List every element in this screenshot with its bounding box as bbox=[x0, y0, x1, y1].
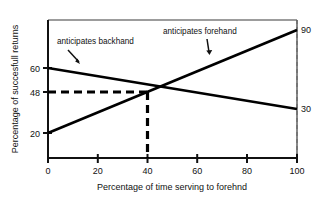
annotation-arrow-forehand-head bbox=[206, 50, 212, 55]
x-tick-label-80: 80 bbox=[242, 166, 252, 176]
annotation-label-anticipates-forehand: anticipates forehand bbox=[163, 27, 237, 36]
x-tick-label-40: 40 bbox=[142, 166, 152, 176]
y-tick-label-48: 48 bbox=[30, 88, 40, 98]
x-tick-label-20: 20 bbox=[93, 166, 103, 176]
line-chart-svg: 60 48 20 0 20 40 60 80 100 Percentage of… bbox=[0, 0, 328, 202]
series-line-anticipates-backhand bbox=[48, 68, 297, 109]
y-axis-title: Percentage of succesfull returns bbox=[10, 24, 20, 153]
annotation-arrow-forehand-shaft bbox=[207, 39, 209, 52]
right-value-label-90: 90 bbox=[301, 25, 311, 35]
x-tick-label-60: 60 bbox=[192, 166, 202, 176]
annotation-label-anticipates-backhand: anticipates backhand bbox=[57, 37, 134, 46]
x-tick-label-100: 100 bbox=[289, 166, 304, 176]
x-axis-title: Percentage of time serving to forehnd bbox=[97, 182, 247, 192]
x-tick-label-0: 0 bbox=[45, 166, 50, 176]
y-tick-label-60: 60 bbox=[30, 64, 40, 74]
chart-container: 60 48 20 0 20 40 60 80 100 Percentage of… bbox=[0, 0, 328, 202]
y-tick-label-20: 20 bbox=[30, 129, 40, 139]
right-value-label-30: 30 bbox=[301, 104, 311, 114]
